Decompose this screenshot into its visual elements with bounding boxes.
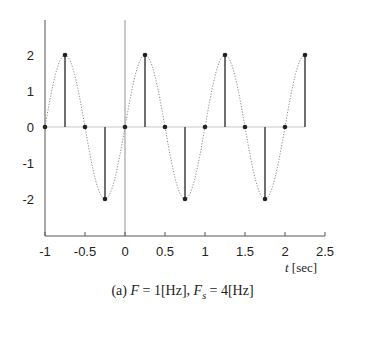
x-tick-label: 0 xyxy=(121,244,128,259)
caption-Fs-value: = 4[Hz] xyxy=(206,283,254,298)
y-tick-label: 0 xyxy=(27,120,34,135)
caption-F: F xyxy=(130,283,139,298)
sample-point xyxy=(223,53,228,58)
sample-point xyxy=(163,125,168,130)
y-tick-label: 1 xyxy=(27,84,34,99)
sample-point xyxy=(103,197,108,202)
caption-Fs: F xyxy=(194,283,203,298)
sample-point xyxy=(63,53,68,58)
x-tick-label: 2 xyxy=(281,244,288,259)
sample-point xyxy=(203,125,208,130)
sample-point xyxy=(243,125,248,130)
y-tick-label: -2 xyxy=(22,192,34,207)
x-tick-label: 1 xyxy=(201,244,208,259)
x-tick-label: 2.5 xyxy=(316,244,334,259)
x-tick-label: -0.5 xyxy=(74,244,96,259)
sample-point xyxy=(183,197,188,202)
x-tick-label: 1.5 xyxy=(236,244,254,259)
caption-F-value: = 1[Hz], xyxy=(139,283,194,298)
y-tick-label: -1 xyxy=(22,156,34,171)
sample-point xyxy=(43,125,48,130)
caption-prefix: (a) xyxy=(111,283,130,298)
sample-point xyxy=(263,197,268,202)
x-tick-label: -1 xyxy=(39,244,51,259)
sample-point xyxy=(143,53,148,58)
sample-point xyxy=(283,125,288,130)
x-tick-label: 0.5 xyxy=(156,244,174,259)
x-axis-label: t [sec] xyxy=(285,260,317,275)
sample-point xyxy=(123,125,128,130)
figure-caption: (a) F = 1[Hz], Fs = 4[Hz] xyxy=(0,283,365,302)
sample-point xyxy=(303,53,308,58)
y-tick-label: 2 xyxy=(27,48,34,63)
sample-point xyxy=(83,125,88,130)
